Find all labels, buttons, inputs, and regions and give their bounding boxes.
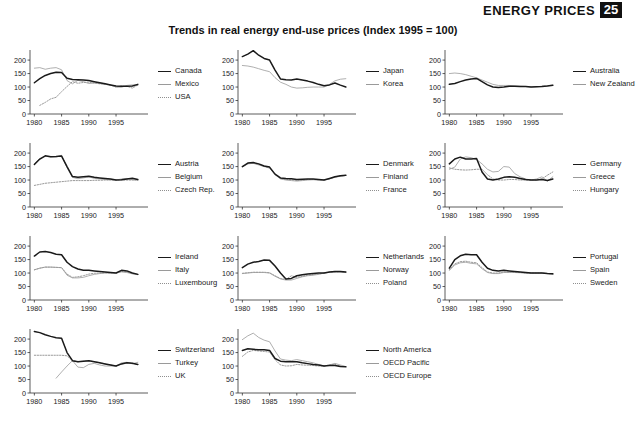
legend-item[interactable]: UK [158,369,214,382]
legend-panel-5: DenmarkFinlandFrance [366,157,414,196]
legend-line-swatch-icon [366,160,379,168]
legend-item-label: Germany [590,159,621,168]
legend-item[interactable]: Australia [573,64,635,77]
legend-panel-10: SwitzerlandTurkeyUK [158,343,214,382]
legend-item[interactable]: France [366,183,414,196]
legend-item-label: New Zealand [590,79,635,88]
y-tick-label: 50 [18,375,26,384]
x-tick-label: 1995 [316,304,332,313]
chart-panel-11: 0501001502001980198519901995North Americ… [208,325,416,418]
legend-item[interactable]: Spain [573,263,618,276]
legend-item[interactable]: OECD Pacific [366,356,432,369]
legend-item[interactable]: OECD Europe [366,369,432,382]
y-tick-label: 100 [222,269,234,278]
series-line [242,272,345,280]
y-tick-label: 100 [222,83,234,92]
y-tick-label: 150 [222,255,234,264]
legend-line-swatch-icon [366,80,379,88]
legend-item[interactable]: Japan [366,64,404,77]
y-tick-label: 150 [14,69,26,78]
plot-area-3: 0501001502001980198519901995 [415,46,623,139]
legend-line-swatch-icon [158,160,171,168]
legend-item[interactable]: Finland [366,170,414,183]
y-tick-label: 50 [18,282,26,291]
legend-item-label: Norway [383,265,409,274]
legend-line-swatch-icon [573,266,586,274]
legend-item-label: Australia [590,66,620,75]
x-tick-label: 1980 [26,304,42,313]
y-tick-label: 50 [433,282,441,291]
chart-panel-1: 0501001502001980198519901995CanadaMexico… [0,46,208,139]
legend-item[interactable]: Czech Rep. [158,183,215,196]
series-line [242,163,345,181]
legend-item[interactable]: Germany [573,157,621,170]
legend-item[interactable]: Greece [573,170,621,183]
legend-item[interactable]: Belgium [158,170,215,183]
x-tick-label: 1990 [289,304,305,313]
legend-item[interactable]: North America [366,343,432,356]
legend-item-label: Sweden [590,278,617,287]
legend-item[interactable]: Canada [158,64,202,77]
y-tick-label: 150 [222,69,234,78]
legend-item[interactable]: Mexico [158,77,202,90]
legend-item[interactable]: Switzerland [158,343,214,356]
legend-item-label: OECD Pacific [383,358,429,367]
x-tick-label: 1985 [262,211,278,220]
chart-title: Trends in real energy end-use prices (In… [0,24,626,36]
x-tick-label: 1980 [441,118,457,127]
legend-item[interactable]: USA [158,90,202,103]
x-tick-label: 1995 [523,118,539,127]
x-tick-label: 1985 [469,304,485,313]
legend-line-swatch-icon [158,186,171,194]
chart-panel-grid: 0501001502001980198519901995CanadaMexico… [0,46,626,430]
y-tick-label: 100 [222,176,234,185]
legend-item-label: Denmark [383,159,414,168]
y-tick-label: 50 [226,96,234,105]
legend-item[interactable]: Korea [366,77,404,90]
legend-item[interactable]: Turkey [158,356,214,369]
legend-panel-1: CanadaMexicoUSA [158,64,202,103]
legend-line-swatch-icon [158,279,171,287]
x-tick-label: 1990 [289,118,305,127]
legend-line-swatch-icon [158,253,171,261]
x-tick-label: 1980 [441,211,457,220]
legend-item[interactable]: Austria [158,157,215,170]
legend-item-label: USA [175,92,191,101]
x-tick-label: 1985 [262,397,278,406]
legend-line-swatch-icon [366,346,379,354]
chart-panel-10: 0501001502001980198519901995SwitzerlandT… [0,325,208,418]
legend-line-swatch-icon [366,359,379,367]
legend-line-swatch-icon [158,359,171,367]
x-tick-label: 1995 [108,118,124,127]
x-tick-label: 1985 [262,304,278,313]
x-tick-label: 1990 [496,118,512,127]
series-line [34,180,137,185]
series-line [34,68,137,88]
legend-item[interactable]: Portugal [573,250,618,263]
x-tick-label: 1980 [26,118,42,127]
legend-line-swatch-icon [158,67,171,75]
chart-panel-9: 0501001502001980198519901995PortugalSpai… [415,232,623,325]
x-tick-label: 1995 [108,304,124,313]
x-tick-label: 1995 [108,397,124,406]
y-tick-label: 150 [14,162,26,171]
legend-item-label: Turkey [175,358,198,367]
chart-panel-3: 0501001502001980198519901995AustraliaNew… [415,46,623,139]
legend-item[interactable]: Sweden [573,276,618,289]
legend-item[interactable]: Hungary [573,183,621,196]
legend-item-label: UK [175,371,186,380]
series-line [242,349,345,367]
legend-item[interactable]: Denmark [366,157,414,170]
chart-panel-8: 0501001502001980198519901995NetherlandsN… [208,232,416,325]
x-tick-label: 1995 [316,118,332,127]
y-tick-label: 50 [226,189,234,198]
legend-item[interactable]: New Zealand [573,77,635,90]
legend-panel-11: North AmericaOECD PacificOECD Europe [366,343,432,382]
series-line [40,82,138,106]
legend-line-swatch-icon [573,253,586,261]
legend-item-label: Hungary [590,185,619,194]
series-line [34,267,137,278]
x-tick-label: 1995 [523,211,539,220]
legend-line-swatch-icon [366,67,379,75]
x-tick-label: 1980 [441,304,457,313]
